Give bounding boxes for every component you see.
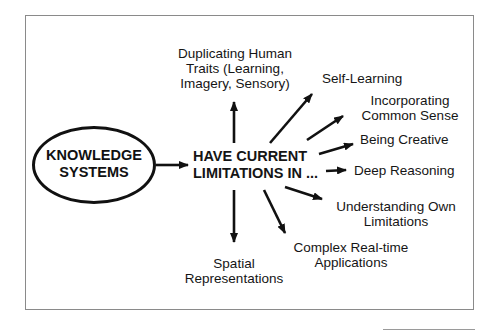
limitation-text: Traits (Learning, xyxy=(168,61,302,76)
arrow-common-sense xyxy=(307,116,343,140)
limitation-common-sense: Incorporating Common Sense xyxy=(352,93,468,123)
limitation-text: Imagery, Sensory) xyxy=(168,76,302,91)
limitation-duplicating-human-traits: Duplicating Human Traits (Learning, Imag… xyxy=(168,46,302,91)
arrow-understanding-limitations xyxy=(285,187,322,199)
limitation-text: Being Creative xyxy=(360,132,449,147)
limitation-text: Spatial xyxy=(176,256,292,271)
knowledge-systems-label: KNOWLEDGE SYSTEMS xyxy=(32,147,156,181)
center-node-line1: HAVE CURRENT xyxy=(193,148,318,165)
knowledge-systems-line1: KNOWLEDGE xyxy=(32,147,156,164)
knowledge-systems-line2: SYSTEMS xyxy=(32,164,156,181)
center-node-label: HAVE CURRENT LIMITATIONS IN ... xyxy=(193,148,318,182)
limitation-text: Limitations xyxy=(328,214,464,229)
arrow-deep-reasoning xyxy=(326,170,346,171)
limitation-understanding-own-limitations: Understanding Own Limitations xyxy=(328,199,464,229)
limitation-deep-reasoning: Deep Reasoning xyxy=(354,163,455,178)
limitation-text: Complex Real-time xyxy=(286,240,416,255)
limitation-spatial-representations: Spatial Representations xyxy=(176,256,292,286)
limitation-self-learning: Self-Learning xyxy=(322,71,402,86)
limitation-text: Applications xyxy=(286,255,416,270)
limitation-text: Common Sense xyxy=(352,108,468,123)
limitation-text: Incorporating xyxy=(352,93,468,108)
limitation-text: Deep Reasoning xyxy=(354,163,455,178)
limitation-text: Duplicating Human xyxy=(168,46,302,61)
limitation-being-creative: Being Creative xyxy=(360,132,449,147)
limitation-text: Representations xyxy=(176,271,292,286)
arrow-self-learning xyxy=(270,94,312,143)
center-node-line2: LIMITATIONS IN ... xyxy=(193,165,318,182)
limitation-complex-realtime: Complex Real-time Applications xyxy=(286,240,416,270)
arrow-complex-realtime xyxy=(264,190,285,233)
arrow-being-creative xyxy=(319,144,353,154)
limitation-text: Self-Learning xyxy=(322,71,402,86)
limitation-text: Understanding Own xyxy=(328,199,464,214)
